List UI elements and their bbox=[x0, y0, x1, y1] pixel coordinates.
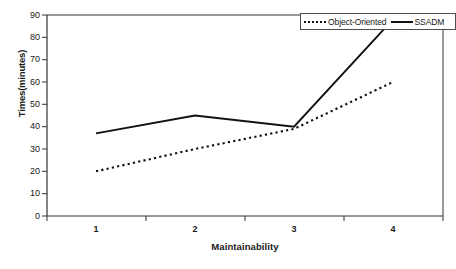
x-tick-label: 4 bbox=[378, 224, 408, 234]
chart-legend: Object-Oriented SSADM bbox=[300, 13, 456, 30]
y-axis-title: Times(minutes) bbox=[16, 24, 27, 144]
legend-item-ssadm: SSADM bbox=[391, 14, 449, 29]
dotted-line-swatch-icon bbox=[304, 21, 326, 23]
solid-line-swatch-icon bbox=[391, 21, 413, 23]
legend-label: SSADM bbox=[413, 17, 449, 27]
x-tick-label: 1 bbox=[81, 224, 111, 234]
legend-item-object-oriented: Object-Oriented bbox=[304, 14, 391, 29]
x-tick-label: 3 bbox=[279, 224, 309, 234]
x-tick-label: 2 bbox=[180, 224, 210, 234]
legend-label: Object-Oriented bbox=[326, 17, 391, 27]
x-axis-title: Maintainability bbox=[47, 241, 443, 252]
